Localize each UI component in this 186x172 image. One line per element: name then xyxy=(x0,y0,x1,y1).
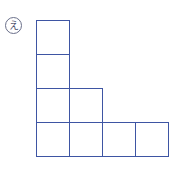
grid-cell xyxy=(69,88,103,123)
grid-cell xyxy=(36,122,70,157)
grid-cell xyxy=(102,122,136,157)
grid-cell xyxy=(36,54,70,89)
grid-cell xyxy=(135,122,169,157)
grid-cell xyxy=(69,122,103,157)
circled-label-e: え xyxy=(5,17,22,34)
grid-cell xyxy=(36,88,70,123)
grid-cell xyxy=(36,20,70,55)
